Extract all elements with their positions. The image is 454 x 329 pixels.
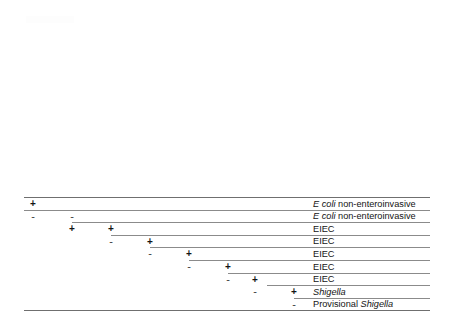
identification-key-table: +E coli non-enteroinvasive--E coli non-e…	[24, 197, 430, 322]
cell-mark-r0-c0: +	[26, 199, 40, 208]
outcome-label-3: EIEC	[313, 236, 334, 246]
row-separator-2	[111, 235, 430, 236]
cell-mark-r5-c5: +	[221, 262, 235, 271]
cell-mark-r8-c7: -	[287, 300, 301, 309]
cell-mark-r3-c3: +	[143, 237, 157, 246]
outcome-label-5: EIEC	[313, 262, 334, 272]
outcome-label-0: E coli non-enteroinvasive	[313, 199, 416, 209]
cell-mark-r1-c1: -	[65, 212, 79, 221]
cell-mark-r6-c5: -	[221, 275, 235, 284]
row-separator-1	[72, 222, 430, 223]
column-header-group: LDCaipaH-gene PCRbMotilitycSalicin, acid…	[0, 0, 454, 197]
cell-mark-r2-c2: +	[104, 224, 118, 233]
cell-mark-r5-c4: -	[182, 262, 196, 271]
row-separator-8	[24, 310, 430, 311]
outcome-label-8: Provisional Shigella	[313, 299, 393, 309]
cell-mark-r2-c1: +	[65, 224, 79, 233]
cell-mark-r4-c3: -	[143, 249, 157, 258]
cell-mark-r4-c4: +	[182, 249, 196, 258]
outcome-label-4: EIEC	[313, 249, 334, 259]
cell-mark-r7-c6: -	[248, 287, 262, 296]
outcome-label-7: Shigella	[313, 287, 346, 297]
outcome-label-2: EIEC	[313, 224, 334, 234]
outcome-label-6: EIEC	[313, 274, 334, 284]
row-separator-3	[150, 247, 430, 248]
cell-mark-r7-c7: +	[287, 287, 301, 296]
cell-mark-r6-c6: +	[248, 275, 262, 284]
cell-mark-r1-c0: -	[26, 212, 40, 221]
cell-mark-r3-c2: -	[104, 237, 118, 246]
outcome-label-1: E coli non-enteroinvasive	[313, 211, 416, 221]
